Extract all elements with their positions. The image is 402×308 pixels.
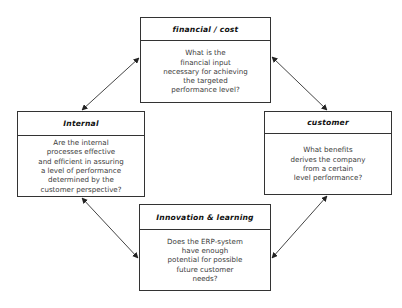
- innovation-box-title: Innovation & learning: [140, 205, 270, 230]
- internal-box-title: Internal: [18, 112, 144, 136]
- arrow-innovation-internal: [82, 198, 138, 258]
- financial-perspective-box: financial / cost What is the financial i…: [140, 17, 271, 103]
- customer-perspective-box: customer What benefits derives the compa…: [264, 111, 392, 195]
- arrow-financial-customer: [272, 57, 327, 110]
- financial-box-title: financial / cost: [141, 18, 270, 41]
- internal-box-question: Are the internal processes effective and…: [18, 136, 144, 196]
- arrow-internal-financial: [82, 58, 139, 110]
- innovation-box-question: Does the ERP-system have enough potentia…: [140, 230, 270, 290]
- internal-perspective-box: Internal Are the internal processes effe…: [17, 111, 145, 197]
- financial-box-question: What is the financial input necessary fo…: [141, 41, 270, 102]
- arrow-customer-innovation: [272, 196, 327, 258]
- customer-box-question: What benefits derives the company from a…: [265, 134, 391, 194]
- innovation-learning-perspective-box: Innovation & learning Does the ERP-syste…: [139, 204, 271, 291]
- customer-box-title: customer: [265, 112, 391, 134]
